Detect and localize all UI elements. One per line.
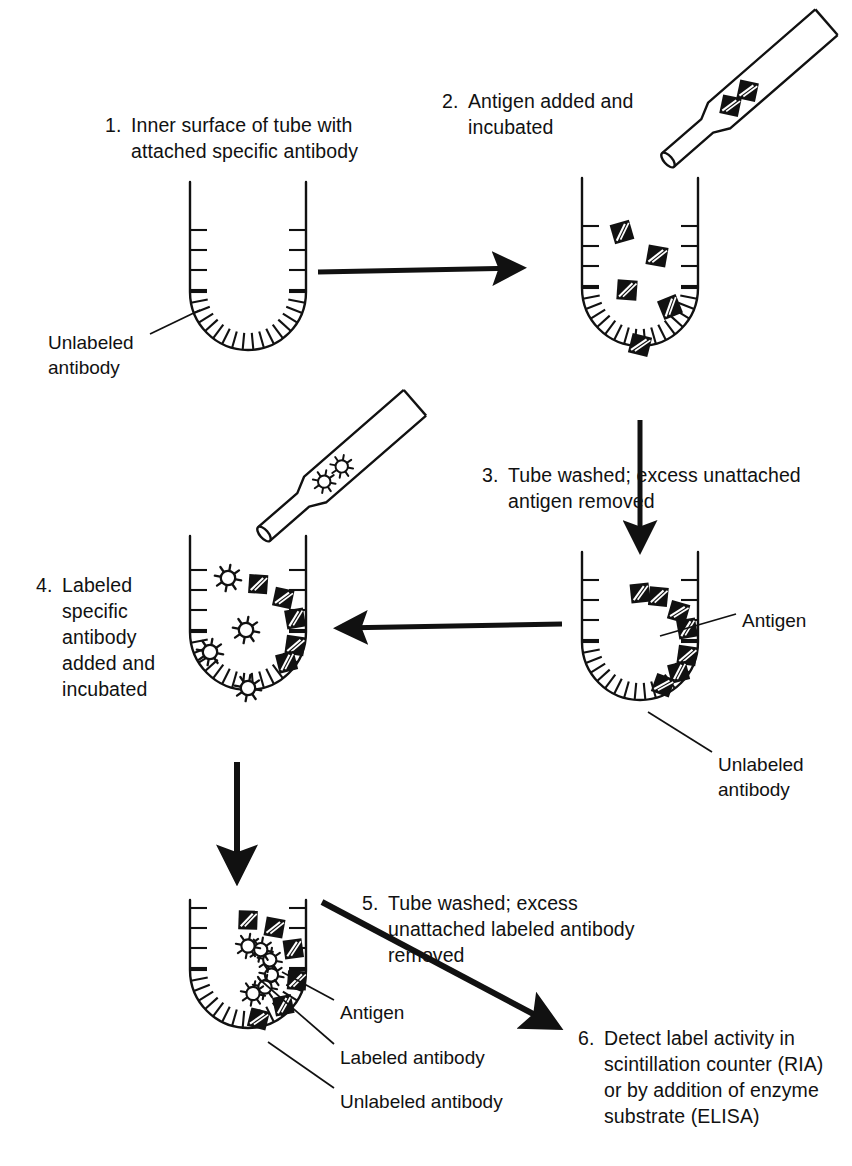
step-2-label: 2.Antigen added and incubated xyxy=(442,88,633,140)
antigen-symbol xyxy=(283,938,304,959)
step-5-number: 5. xyxy=(362,890,378,916)
antigen-symbol xyxy=(648,586,669,607)
leader-tube1-unlabeled-antibody xyxy=(150,310,200,334)
step-1-label: 1.Inner surface of tube with attached sp… xyxy=(105,112,358,164)
antigen-symbol xyxy=(616,279,637,300)
antigen-symbol xyxy=(645,244,668,267)
callout-tube3-antigen: Antigen xyxy=(742,608,806,633)
step-3-text: Tube washed; excess unattached antigen r… xyxy=(508,462,801,514)
antigen-symbol xyxy=(272,994,295,1017)
labeled-antibody-symbol xyxy=(235,675,261,701)
labeled-antibody-symbol xyxy=(215,565,241,591)
step-6-label: 6.Detect label activity in scintillation… xyxy=(578,1025,823,1129)
leader-tube3-unlabeled-antibody xyxy=(648,712,712,752)
tube-tube-empty-antibody-coated xyxy=(190,182,306,350)
antigen-symbol xyxy=(272,587,295,610)
antigen-symbol xyxy=(238,910,258,930)
step-3-number: 3. xyxy=(482,462,498,488)
step-6-number: 6. xyxy=(578,1025,594,1051)
step-4-text: Labeled specific antibody added and incu… xyxy=(62,572,155,702)
callout-tube3-unlabeled-antibody: Unlabeled antibody xyxy=(718,752,804,802)
step-6-text: Detect label activity in scintillation c… xyxy=(604,1025,823,1129)
callout-tube5-antigen: Antigen xyxy=(340,1000,404,1025)
pipette-dispensing-labeled-antibody xyxy=(250,390,426,550)
step-1-number: 1. xyxy=(105,112,121,138)
step-2-text: Antigen added and incubated xyxy=(468,88,633,140)
tube-tube-antigen-added xyxy=(582,178,698,357)
callout-tube1-unlabeled-antibody: Unlabeled antibody xyxy=(48,330,134,380)
tube-tube-labeled-antibody-added xyxy=(190,536,306,701)
step-5-label: 5.Tube washed; excess unattached labeled… xyxy=(362,890,635,968)
antigen-symbol xyxy=(248,574,268,594)
step-2-number: 2. xyxy=(442,88,458,114)
step-4-number: 4. xyxy=(36,572,52,598)
antigen-symbol xyxy=(610,220,635,245)
leader-tube5-unlabeled-antibody xyxy=(268,1042,334,1088)
callout-tube5-labeled-antibody: Labeled antibody xyxy=(340,1045,485,1070)
arrow-3-to-4 xyxy=(340,624,562,628)
step-1-text: Inner surface of tube with attached spec… xyxy=(131,112,358,164)
step-4-label: 4.Labeled specific antibody added and in… xyxy=(36,572,155,702)
arrow-1-to-2 xyxy=(318,268,520,272)
step-3-label: 3.Tube washed; excess unattached antigen… xyxy=(482,462,801,514)
step-5-text: Tube washed; excess unattached labeled a… xyxy=(388,890,635,968)
tube-tube-washed-antigen-bound xyxy=(582,552,698,700)
callout-tube5-unlabeled-antibody: Unlabeled antibody xyxy=(340,1089,503,1114)
antigen-symbol xyxy=(284,607,306,629)
antigen-symbol xyxy=(630,583,651,604)
figure-canvas: 1.Inner surface of tube with attached sp… xyxy=(0,0,852,1166)
pipette-dispensing-antigen xyxy=(654,9,838,175)
antigen-symbol xyxy=(736,80,759,103)
tube-tube-final-sandwich-complex xyxy=(190,900,307,1030)
antigen-symbol xyxy=(263,917,285,939)
antigen-symbol xyxy=(657,294,683,320)
antigen-symbol xyxy=(628,333,652,357)
labeled-antibody-symbol xyxy=(233,617,259,643)
